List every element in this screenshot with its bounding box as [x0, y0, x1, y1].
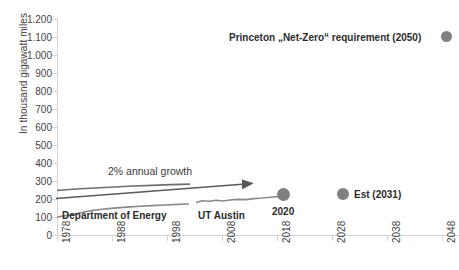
annotation-ut-austin-label: UT Austin — [198, 211, 245, 221]
annotation-growth-label: 2% annual growth — [108, 166, 192, 177]
data-point-2020[interactable] — [277, 188, 290, 201]
annotation-2020-label: 2020 — [272, 207, 294, 217]
annotation-doe-label: Department of Energy — [62, 211, 166, 221]
annotation-princeton-label: Princeton „Net-Zero“ requirement (2050) — [229, 33, 421, 43]
annotation-est-2031-label: Est (2031) — [354, 190, 401, 200]
data-point-est-2031[interactable] — [337, 188, 349, 200]
data-point-princeton-net-zero[interactable] — [441, 31, 452, 42]
chart-container: In thousand gigawatt miles 1.200 1.100 1… — [0, 0, 459, 270]
series-line-ut-austin — [196, 197, 278, 203]
